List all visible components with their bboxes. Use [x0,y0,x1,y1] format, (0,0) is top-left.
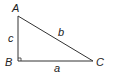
vertex-label-a: A [11,2,19,14]
triangle-shape [18,16,93,61]
side-label-c: c [8,32,14,44]
right-triangle-diagram: A B C a b c [0,0,113,73]
side-label-b: b [58,26,64,38]
vertex-label-c: C [96,56,104,68]
side-label-a: a [54,62,60,73]
vertex-label-b: B [5,56,12,68]
